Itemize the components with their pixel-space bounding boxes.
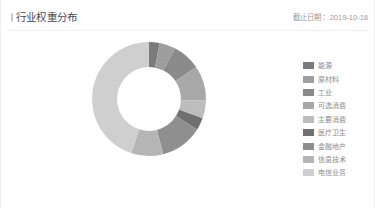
accent-bar-icon — [11, 13, 13, 22]
card-title-text: 行业权重分布 — [16, 11, 77, 24]
legend-color-swatch — [303, 89, 314, 96]
legend-color-swatch — [303, 156, 314, 163]
legend-item[interactable]: 工业 — [303, 86, 375, 99]
donut-slice-group — [92, 42, 206, 156]
legend-item[interactable]: 可选消费 — [303, 99, 375, 112]
legend-item-label: 信息技术 — [318, 155, 346, 164]
legend-item-label: 可选消费 — [318, 101, 346, 110]
legend-list: 能源原材料工业可选消费主要消费医疗卫生金融地产信息技术电信业务 — [303, 59, 375, 180]
legend-item[interactable]: 信息技术 — [303, 153, 375, 166]
legend-color-swatch — [303, 62, 314, 69]
legend-item[interactable]: 能源 — [303, 59, 375, 72]
chart-legend: 能源原材料工业可选消费主要消费医疗卫生金融地产信息技术电信业务 — [303, 59, 375, 180]
page-title: 行业权重分布 — [11, 11, 77, 24]
chart-area: 能源原材料工业可选消费主要消费医疗卫生金融地产信息技术电信业务 — [1, 31, 375, 208]
legend-item-label: 原材料 — [318, 75, 339, 84]
legend-item[interactable]: 金融地产 — [303, 139, 375, 152]
legend-item[interactable]: 主要消费 — [303, 113, 375, 126]
card-header: 行业权重分布 截止日期 ： 2019-10-18 — [1, 8, 375, 30]
industry-weight-card: 行业权重分布 截止日期 ： 2019-10-18 能源原材料工业可选消费主要消费… — [0, 0, 375, 208]
legend-item-label: 金融地产 — [318, 142, 346, 151]
donut-chart-svg — [89, 39, 209, 159]
legend-color-swatch — [303, 169, 314, 176]
legend-color-swatch — [303, 143, 314, 150]
cutoff-date-label: 截止日期 — [293, 13, 321, 23]
donut-chart — [89, 39, 209, 159]
legend-item-label: 医疗卫生 — [318, 128, 346, 137]
legend-item[interactable]: 原材料 — [303, 72, 375, 85]
legend-item-label: 主要消费 — [318, 115, 346, 124]
legend-color-swatch — [303, 129, 314, 136]
cutoff-date-separator: ： — [321, 13, 330, 23]
legend-color-swatch — [303, 116, 314, 123]
cutoff-date: 截止日期 ： 2019-10-18 — [293, 13, 368, 23]
legend-item[interactable]: 医疗卫生 — [303, 126, 375, 139]
legend-item-label: 能源 — [318, 61, 332, 70]
cutoff-date-value: 2019-10-18 — [330, 13, 368, 23]
legend-item[interactable]: 电信业务 — [303, 166, 375, 179]
legend-color-swatch — [303, 76, 314, 83]
legend-color-swatch — [303, 102, 314, 109]
legend-item-label: 电信业务 — [318, 168, 346, 177]
legend-item-label: 工业 — [318, 88, 332, 97]
